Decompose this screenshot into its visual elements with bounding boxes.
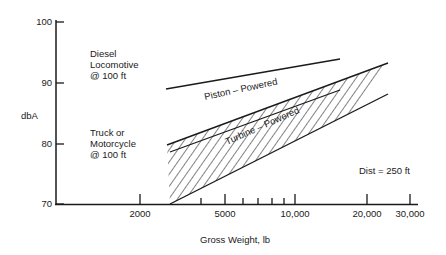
piston-label: Piston – Powered bbox=[203, 76, 278, 102]
distance-annotation: Dist = 250 ft bbox=[359, 165, 410, 176]
x-tick-label: 5000 bbox=[214, 208, 235, 219]
x-axis-label: Gross Weight, lb bbox=[200, 234, 270, 245]
truck-annotation: Truck or Motorcycle @ 100 ft bbox=[90, 127, 136, 160]
y-ticks bbox=[56, 22, 64, 204]
y-tick-label: 80 bbox=[22, 138, 52, 149]
x-tick-label: 10,000 bbox=[280, 208, 309, 219]
y-tick-label: 90 bbox=[22, 77, 52, 88]
y-tick-label: 70 bbox=[22, 198, 52, 209]
y-tick-label: 100 bbox=[22, 16, 52, 27]
x-tick-label: 20,000 bbox=[352, 208, 381, 219]
x-tick-label: 2000 bbox=[129, 208, 150, 219]
diesel-annotation: Diesel Locomotive @ 100 ft bbox=[90, 48, 139, 81]
x-tick-label: 30,000 bbox=[395, 208, 424, 219]
y-axis-label: dbA bbox=[21, 110, 38, 121]
